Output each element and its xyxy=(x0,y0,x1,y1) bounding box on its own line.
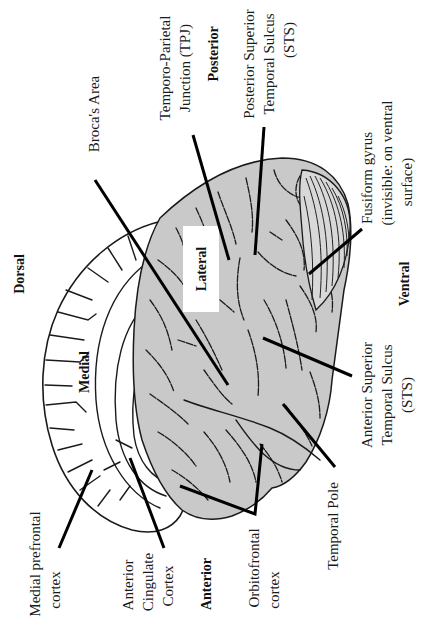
tpj-label: Temporo-Parietal Junction (TPJ) xyxy=(157,16,194,121)
orbitofrontal-label-line1: Orbitofrontal xyxy=(246,528,262,607)
lateral-view-label: Lateral xyxy=(194,247,209,291)
acc-label-line2: Cingulate xyxy=(140,552,156,611)
dorsal-direction-label: Dorsal xyxy=(12,254,27,294)
medial-view-label: Medial xyxy=(77,351,92,393)
acc-label-line3: Cortex xyxy=(160,565,176,606)
ventral-direction-label: Ventral xyxy=(397,262,412,307)
tpj-label-line2: Junction (TPJ) xyxy=(177,24,194,112)
posterior-sts-label: Posterior Superior Temporal Sulcus (STS) xyxy=(241,9,298,119)
acc-label: Anterior Cingulate Cortex xyxy=(120,552,176,611)
anterior-direction-label: Anterior xyxy=(199,558,214,610)
asts-label-line2: Temporal Sulcus xyxy=(379,344,395,445)
anterior-sts-label: Anterior Superior Temporal Sulcus (STS) xyxy=(359,342,416,448)
orbitofrontal-label-line2: cortex xyxy=(266,571,282,609)
psts-label-line3: (STS) xyxy=(281,22,298,58)
asts-label-line3: (STS) xyxy=(399,377,416,413)
orbitofrontal-label: Orbitofrontal cortex xyxy=(246,528,282,608)
brain-regions-diagram: Lateral Medial Dorsal Posterior Ventral … xyxy=(0,0,430,620)
fusiform-label-line2: (invisible: on ventral xyxy=(379,101,396,226)
fusiform-label-line1: Fusiform gyrus xyxy=(359,132,375,224)
mpfc-label: Medial prefrontal cortex xyxy=(27,511,63,616)
mpfc-label-line1: Medial prefrontal xyxy=(27,511,43,616)
mpfc-label-line2: cortex xyxy=(47,571,63,609)
acc-label-line1: Anterior xyxy=(120,560,136,611)
psts-label-line2: Temporal Sulcus xyxy=(261,13,277,114)
tpj-label-line1: Temporo-Parietal xyxy=(157,16,173,121)
temporal-pole-label: Temporal Pole xyxy=(325,482,341,570)
psts-label-line1: Posterior Superior xyxy=(241,9,257,119)
fusiform-label-line3: surface) xyxy=(399,158,416,206)
brocas-area-label: Broca's Area xyxy=(86,75,102,152)
fusiform-gyrus-label: Fusiform gyrus (invisible: on ventral su… xyxy=(359,101,416,226)
posterior-direction-label: Posterior xyxy=(206,26,221,81)
asts-label-line1: Anterior Superior xyxy=(359,342,375,448)
